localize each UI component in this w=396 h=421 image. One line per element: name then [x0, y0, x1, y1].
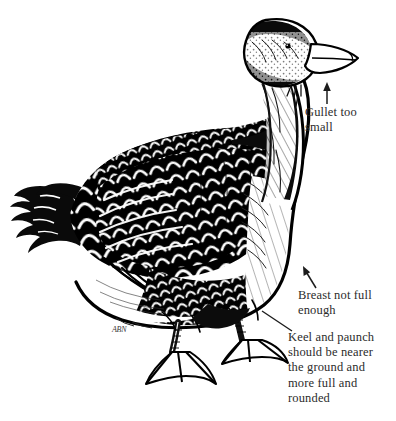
gullet-arrow — [323, 82, 331, 104]
breast-arrow — [303, 266, 316, 288]
annotation-breast-not-full-enough: Breast not full enough — [298, 288, 396, 318]
artist-signature: ABN — [112, 325, 126, 334]
keel-leader-line — [262, 311, 292, 331]
annotation-gullet-too-small: Gullet too small — [305, 105, 396, 135]
goose-eye — [285, 43, 290, 48]
goose-head — [244, 18, 358, 106]
annotation-keel-and-paunch: Keel and paunch should be nearer the gro… — [288, 330, 396, 406]
illustration-page: Gullet too small Breast not full enough … — [0, 0, 396, 421]
